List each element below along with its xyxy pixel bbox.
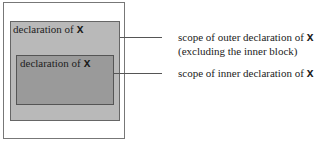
outer-scope-annotation: scope of outer declaration of x (excludi… — [178, 31, 314, 58]
inner-scope-connector — [114, 73, 162, 74]
inner-scope-annotation: scope of inner declaration of x — [178, 67, 314, 81]
inner-block-label: declaration of x — [20, 57, 91, 71]
outer-block-label: declaration of x — [13, 23, 84, 37]
outer-scope-connector — [120, 37, 162, 38]
